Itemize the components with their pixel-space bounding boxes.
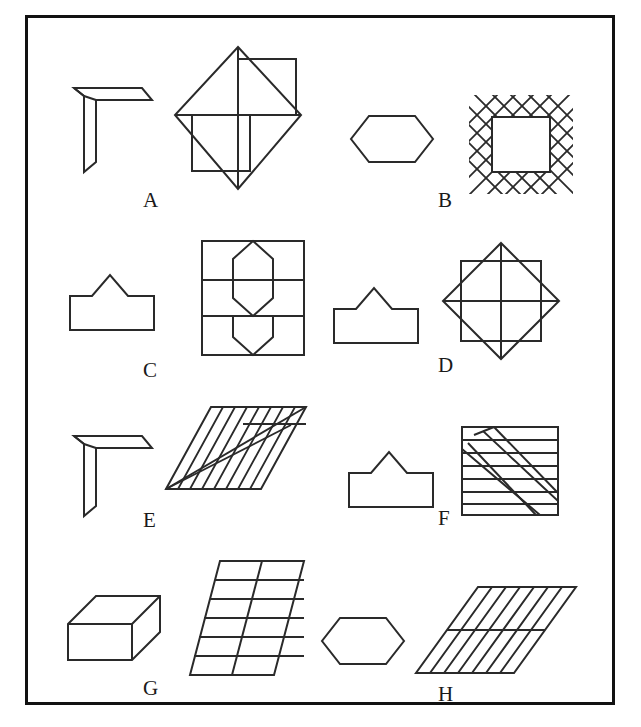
figure-label-b: B bbox=[438, 190, 452, 211]
figure-a-left-bent-l-strip bbox=[70, 80, 160, 180]
figure-label-c: C bbox=[143, 360, 157, 381]
figure-d-left-tent-pentagon bbox=[330, 283, 422, 347]
figure-label-f: F bbox=[438, 508, 450, 529]
figure-d-right-square-diamond-star bbox=[440, 240, 562, 362]
figure-label-g: G bbox=[143, 678, 158, 699]
figure-b-right-crosshatch-bordered-square bbox=[466, 92, 576, 197]
figure-label-a: A bbox=[143, 190, 158, 211]
figure-h-left-horizontal-hexagon bbox=[318, 614, 408, 668]
figure-g-left-isometric-box bbox=[64, 588, 164, 664]
figure-g-right-slanted-grid-parallelogram bbox=[186, 557, 308, 679]
figure-f-right-square-with-diagonal-band bbox=[458, 423, 562, 519]
figure-label-h: H bbox=[438, 684, 453, 705]
figure-c-right-rectangle-with-twin-hexagons bbox=[197, 237, 309, 359]
figure-e-right-striped-parallelogram bbox=[163, 403, 310, 495]
figure-h-right-diagonally-hatched-parallelogram bbox=[412, 583, 580, 679]
figure-label-d: D bbox=[438, 355, 453, 376]
figure-f-left-tent-pentagon bbox=[345, 447, 437, 511]
figure-label-e: E bbox=[143, 510, 156, 531]
figure-c-left-tent-pentagon bbox=[66, 270, 158, 334]
figure-plate: A B C D bbox=[0, 0, 641, 727]
figure-b-left-horizontal-hexagon bbox=[347, 112, 437, 166]
figure-e-left-bent-l-strip bbox=[70, 430, 160, 520]
figure-a-right-diamond-with-two-squares bbox=[170, 42, 315, 194]
